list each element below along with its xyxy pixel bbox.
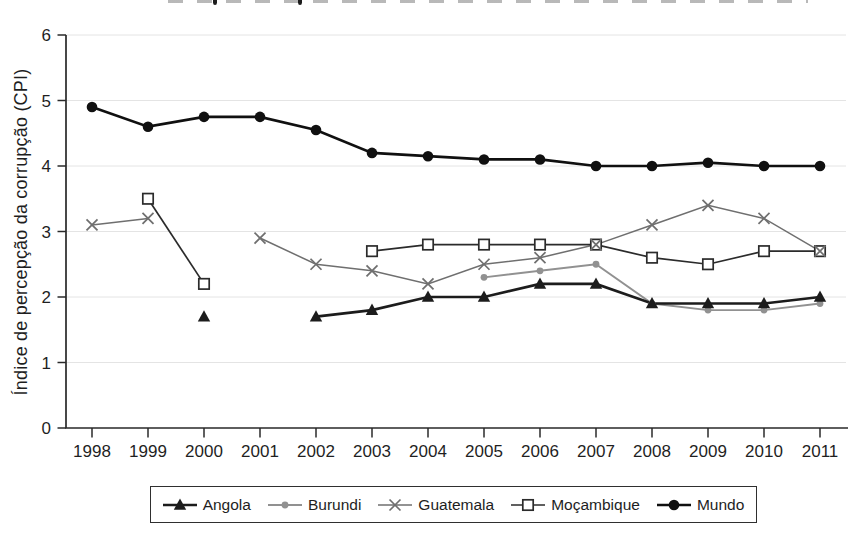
series-line-mocambique	[148, 199, 204, 284]
mocambique-marker-2003	[367, 246, 377, 256]
burundi-marker-2006	[537, 267, 544, 274]
x-tick-label: 2004	[409, 442, 447, 461]
burundi-marker-2005	[481, 274, 488, 281]
y-tick-label: 4	[42, 157, 51, 176]
mundo-marker-2010	[759, 161, 770, 172]
burundi-legend-marker-icon	[268, 497, 302, 513]
y-tick-label: 0	[42, 419, 51, 438]
mundo-legend-marker-icon	[657, 497, 691, 513]
legend-item-label: Mundo	[697, 496, 744, 514]
mundo-marker-2005	[479, 154, 490, 165]
x-tick-label: 2003	[353, 442, 391, 461]
mundo-marker-2008	[647, 161, 658, 172]
mundo-marker-2000	[199, 112, 210, 123]
angola-marker-2000	[198, 310, 210, 321]
mocambique-marker-2008	[647, 253, 657, 263]
y-tick-label: 5	[42, 92, 51, 111]
mocambique-marker-2010	[759, 246, 769, 256]
mocambique-legend-glyph	[523, 499, 533, 509]
mundo-marker-2011	[815, 161, 826, 172]
mundo-marker-2002	[311, 125, 322, 136]
x-tick-label: 2005	[465, 442, 503, 461]
legend-item-mundo: Mundo	[657, 496, 744, 514]
mundo-marker-2007	[591, 161, 602, 172]
legend-item-angola: Angola	[163, 496, 251, 514]
y-tick-label: 1	[42, 354, 51, 373]
guatemala-legend-marker-icon	[378, 497, 412, 513]
mundo-marker-1999	[143, 121, 154, 132]
angola-legend-marker-icon	[163, 497, 197, 513]
legend-item-label: Moçambique	[551, 496, 640, 514]
mocambique-marker-2006	[535, 239, 545, 249]
mundo-marker-2009	[703, 157, 714, 168]
burundi-legend-glyph	[282, 501, 289, 508]
y-tick-label: 2	[42, 288, 51, 307]
mundo-marker-2003	[367, 148, 378, 159]
mundo-marker-2001	[255, 112, 266, 123]
series-line-angola	[316, 284, 820, 317]
y-tick-label: 3	[42, 223, 51, 242]
mocambique-marker-1999	[143, 194, 153, 204]
x-tick-label: 2011	[802, 442, 839, 461]
x-tick-label: 2007	[577, 442, 615, 461]
cropped-title-descender-mark	[298, 0, 302, 5]
x-tick-label: 2006	[521, 442, 559, 461]
legend-item-guatemala: Guatemala	[378, 496, 494, 514]
cropped-title-fragment	[168, 0, 808, 3]
figure: Índice de percepção da corrupção (CPI) 0…	[0, 0, 856, 479]
mocambique-marker-2000	[199, 279, 209, 289]
legend-item-label: Burundi	[308, 496, 361, 514]
x-tick-label: 2001	[241, 442, 279, 461]
mundo-marker-2006	[535, 154, 546, 165]
x-tick-label: 2009	[689, 442, 727, 461]
y-axis-title: Índice de percepção da corrupção (CPI)	[11, 32, 37, 432]
chart-svg: 0123456199819992000200120022003200420052…	[0, 0, 856, 475]
mocambique-marker-2004	[423, 239, 433, 249]
legend-item-label: Guatemala	[418, 496, 494, 514]
mundo-legend-glyph	[669, 499, 680, 510]
mundo-marker-1998	[87, 102, 98, 113]
mocambique-marker-2005	[479, 239, 489, 249]
x-tick-label: 1998	[73, 442, 111, 461]
burundi-marker-2007	[593, 261, 600, 268]
x-tick-label: 2008	[633, 442, 671, 461]
legend-item-label: Angola	[203, 496, 251, 514]
x-tick-label: 2002	[297, 442, 335, 461]
legend-item-mocambique: Moçambique	[511, 496, 640, 514]
legend: AngolaBurundiGuatemalaMoçambiqueMundo	[150, 486, 757, 523]
x-tick-label: 2000	[185, 442, 223, 461]
angola-marker-2011	[814, 291, 826, 302]
mundo-marker-2004	[423, 151, 434, 162]
mocambique-marker-2009	[703, 259, 713, 269]
mocambique-legend-marker-icon	[511, 497, 545, 513]
x-tick-label: 2010	[745, 442, 783, 461]
legend-item-burundi: Burundi	[268, 496, 361, 514]
cropped-title-descender-mark	[213, 0, 217, 5]
y-tick-label: 6	[42, 26, 51, 45]
series-line-guatemala	[92, 218, 148, 225]
x-tick-label: 1999	[129, 442, 167, 461]
